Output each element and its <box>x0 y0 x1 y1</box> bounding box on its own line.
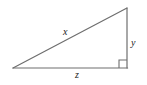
hypotenuse-label: x <box>63 27 67 37</box>
right-angle-square-icon <box>119 60 127 68</box>
triangle-drawing <box>0 0 147 85</box>
base-leg-label: z <box>75 70 79 80</box>
hypotenuse-line <box>13 8 127 68</box>
right-triangle-diagram: x y z <box>0 0 147 85</box>
vertical-leg-label: y <box>131 38 135 48</box>
